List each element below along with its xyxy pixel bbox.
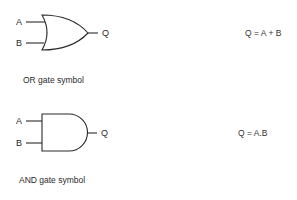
- and-gate-symbol-icon: [0, 0, 297, 200]
- and-input-b-label: B: [16, 138, 22, 148]
- and-output-q-label: Q: [101, 128, 108, 138]
- and-gate-equation: Q = A.B: [238, 128, 268, 138]
- and-input-a-label: A: [16, 116, 22, 126]
- and-gate-caption: AND gate symbol: [19, 175, 85, 185]
